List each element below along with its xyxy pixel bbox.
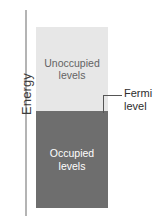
fermi-level-leader-vertical (103, 95, 104, 113)
unoccupied-levels-label-line2: levels (59, 69, 86, 82)
fermi-level-leader-horizontal (103, 95, 122, 96)
fermi-level-label-line1: Fermi (124, 87, 162, 100)
fermi-level-label: Fermi level (124, 87, 162, 113)
energy-band-diagram: Energy Unoccupied levels Occupied levels… (0, 0, 162, 224)
unoccupied-levels-region: Unoccupied levels (36, 27, 108, 111)
fermi-level-label-line2: level (124, 100, 162, 113)
band-bar: Unoccupied levels Occupied levels (36, 27, 108, 208)
energy-axis-label: Energy (19, 70, 35, 118)
unoccupied-levels-label-line1: Unoccupied (44, 57, 99, 70)
occupied-levels-label-line1: Occupied (50, 147, 94, 160)
occupied-levels-label-line2: levels (59, 160, 86, 173)
occupied-levels-region: Occupied levels (36, 111, 108, 208)
